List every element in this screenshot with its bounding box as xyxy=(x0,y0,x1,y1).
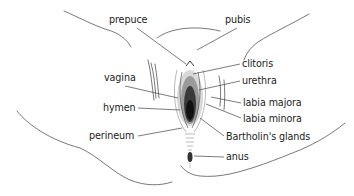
leader-labia-minora xyxy=(206,104,241,118)
label-pubis: pubis xyxy=(225,15,250,25)
label-bartholins-glands: Bartholin's glands xyxy=(226,132,310,142)
leader-prepuce xyxy=(137,28,186,64)
leader-clitoris xyxy=(193,64,240,74)
leader-vagina xyxy=(125,86,178,98)
leader-labia-majora xyxy=(211,97,241,103)
label-perineum: perineum xyxy=(89,131,134,141)
label-clitoris: clitoris xyxy=(242,59,273,69)
labia-majora-left-outline xyxy=(148,60,154,100)
vulva-illustration xyxy=(174,61,205,168)
label-labia-majora: labia majora xyxy=(243,98,302,108)
left-buttock-contour xyxy=(17,111,172,185)
leader-anus xyxy=(194,156,224,157)
label-labia-minora: labia minora xyxy=(243,114,302,124)
anus-shape xyxy=(188,152,193,162)
leader-bartholins xyxy=(200,118,224,136)
leader-perineum xyxy=(138,128,182,136)
label-vagina: vagina xyxy=(104,73,136,83)
anatomy-diagram: prepuce pubis clitoris urethra vagina la… xyxy=(0,0,354,196)
label-prepuce: prepuce xyxy=(109,15,147,25)
label-anus: anus xyxy=(226,152,249,162)
label-hymen: hymen xyxy=(103,103,136,113)
leader-hymen xyxy=(138,108,180,110)
label-urethra: urethra xyxy=(242,76,277,86)
pubis-mound-arc xyxy=(157,28,220,38)
leader-pubis xyxy=(197,28,237,50)
right-thigh-contour xyxy=(244,14,309,60)
